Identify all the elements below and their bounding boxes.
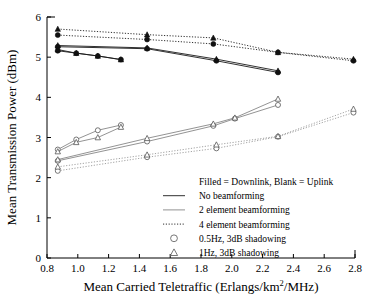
data-point-circle xyxy=(55,33,60,38)
x-tick-label: 1.8 xyxy=(194,262,208,274)
legend-circle-icon xyxy=(171,235,178,242)
x-axis-title: Mean Carried Teletraffic (Erlangs/km2/MH… xyxy=(84,278,319,294)
legend-label-0: No beamforming xyxy=(199,191,264,201)
figure: 0.81.01.21.41.61.82.02.22.42.62.80123456… xyxy=(0,0,381,307)
data-point-circle xyxy=(211,41,216,46)
x-tick-label: 2.4 xyxy=(287,262,301,274)
y-tick-label: 4 xyxy=(36,91,42,103)
y-tick-label: 2 xyxy=(36,172,42,184)
legend-label-2: 4 element beamforming xyxy=(199,220,290,230)
data-point-circle xyxy=(145,37,150,42)
legend-label-3: 0.5Hz, 3dB shadowing xyxy=(199,234,286,244)
x-tick-label: 2.2 xyxy=(256,262,270,274)
x-tick-label: 1.2 xyxy=(102,262,116,274)
x-tick-label: 0.8 xyxy=(40,262,54,274)
y-axis-title: Mean Transmission Power (dBm) xyxy=(4,50,19,226)
data-point-circle xyxy=(95,128,100,133)
x-tick-label: 1.4 xyxy=(133,262,147,274)
x-tick-label: 2.0 xyxy=(225,262,239,274)
x-tick-label: 1.6 xyxy=(163,262,177,274)
chart-canvas: 0.81.01.21.41.61.82.02.22.42.62.80123456… xyxy=(0,0,381,307)
legend-label-1: 2 element beamforming xyxy=(199,205,290,215)
y-tick-label: 3 xyxy=(36,132,42,144)
y-tick-label: 1 xyxy=(36,212,42,224)
x-tick-label: 1.0 xyxy=(71,262,85,274)
legend-note: Filled = Downlink, Blank = Uplink xyxy=(199,177,333,187)
y-tick-label: 0 xyxy=(36,252,42,264)
data-point-circle xyxy=(276,102,281,107)
x-tick-label: 2.6 xyxy=(317,262,331,274)
legend-label-4: 1Hz, 3dB shadowing xyxy=(199,248,279,258)
y-tick-label: 6 xyxy=(36,11,42,23)
x-tick-label: 2.8 xyxy=(348,262,362,274)
y-tick-label: 5 xyxy=(36,51,42,63)
